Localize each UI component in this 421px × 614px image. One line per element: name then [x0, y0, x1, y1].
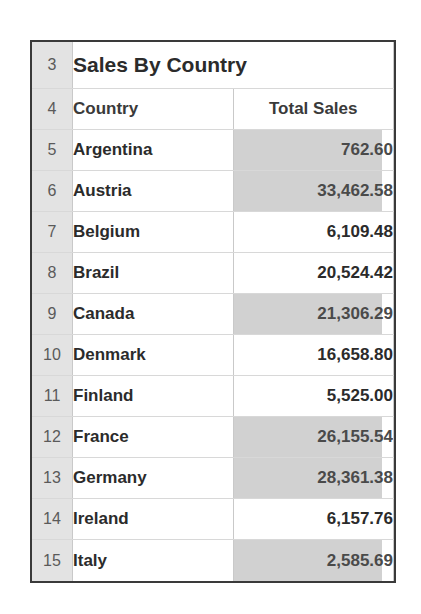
- row-header[interactable]: 6: [32, 171, 73, 212]
- column-header-country[interactable]: Country: [73, 88, 234, 129]
- cell-country[interactable]: Brazil: [73, 253, 234, 294]
- cell-total-sales[interactable]: 6,109.48: [233, 212, 394, 253]
- cell-country[interactable]: Austria: [73, 171, 234, 212]
- cell-country[interactable]: Canada: [73, 294, 234, 335]
- table-row: 9 Canada 21,306.29: [32, 294, 394, 335]
- cell-country[interactable]: Belgium: [73, 212, 234, 253]
- cell-total-sales[interactable]: 16,658.80: [233, 335, 394, 376]
- row-header[interactable]: 13: [32, 458, 73, 499]
- cell-country[interactable]: Germany: [73, 458, 234, 499]
- cell-country[interactable]: Argentina: [73, 129, 234, 170]
- row-header[interactable]: 14: [32, 499, 73, 540]
- row-header[interactable]: 15: [32, 540, 73, 581]
- table-row: 10 Denmark 16,658.80: [32, 335, 394, 376]
- title-row: 3 Sales By Country: [32, 42, 394, 88]
- cell-total-sales[interactable]: 5,525.00: [233, 376, 394, 417]
- column-header-total-sales[interactable]: Total Sales: [233, 88, 394, 129]
- cell-total-sales[interactable]: 28,361.38: [233, 458, 394, 499]
- table-row: 12 France 26,155.54: [32, 417, 394, 458]
- table-body: 3 Sales By Country 4 Country Total Sales…: [32, 42, 394, 581]
- row-header[interactable]: 11: [32, 376, 73, 417]
- table-row: 14 Ireland 6,157.76: [32, 499, 394, 540]
- page-title[interactable]: Sales By Country: [73, 42, 394, 88]
- row-header[interactable]: 10: [32, 335, 73, 376]
- cell-total-sales[interactable]: 6,157.76: [233, 499, 394, 540]
- cell-total-sales[interactable]: 2,585.69: [233, 540, 394, 581]
- cell-country[interactable]: France: [73, 417, 234, 458]
- row-header[interactable]: 5: [32, 129, 73, 170]
- row-header[interactable]: 8: [32, 253, 73, 294]
- row-header[interactable]: 9: [32, 294, 73, 335]
- table-row: 8 Brazil 20,524.42: [32, 253, 394, 294]
- cell-country[interactable]: Italy: [73, 540, 234, 581]
- table-row: 5 Argentina 762.60: [32, 129, 394, 170]
- cell-total-sales[interactable]: 26,155.54: [233, 417, 394, 458]
- table-row: 6 Austria 33,462.58: [32, 171, 394, 212]
- sales-by-country-table: 3 Sales By Country 4 Country Total Sales…: [32, 42, 394, 581]
- row-header-4[interactable]: 4: [32, 88, 73, 129]
- cell-total-sales[interactable]: 20,524.42: [233, 253, 394, 294]
- cell-total-sales[interactable]: 762.60: [233, 129, 394, 170]
- spreadsheet-frame: 3 Sales By Country 4 Country Total Sales…: [30, 40, 396, 583]
- row-header[interactable]: 7: [32, 212, 73, 253]
- cell-country[interactable]: Finland: [73, 376, 234, 417]
- cell-country[interactable]: Ireland: [73, 499, 234, 540]
- table-row: 15 Italy 2,585.69: [32, 540, 394, 581]
- table-row: 11 Finland 5,525.00: [32, 376, 394, 417]
- row-header[interactable]: 12: [32, 417, 73, 458]
- cell-country[interactable]: Denmark: [73, 335, 234, 376]
- table-row: 13 Germany 28,361.38: [32, 458, 394, 499]
- cell-total-sales[interactable]: 33,462.58: [233, 171, 394, 212]
- column-header-row: 4 Country Total Sales: [32, 88, 394, 129]
- row-header-3[interactable]: 3: [32, 42, 73, 88]
- table-row: 7 Belgium 6,109.48: [32, 212, 394, 253]
- cell-total-sales[interactable]: 21,306.29: [233, 294, 394, 335]
